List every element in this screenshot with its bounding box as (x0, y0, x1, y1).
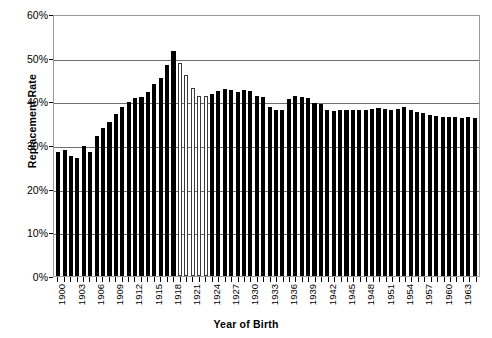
x-tick-mark (173, 277, 174, 282)
replacement-rate-bar-chart: Replacement Rate 0%10%20%30%40%50%60% 19… (0, 0, 492, 338)
x-tick-label: 1951 (384, 284, 395, 305)
bar (255, 96, 259, 276)
bar (63, 150, 67, 276)
bar (261, 97, 265, 276)
x-tick-mark (257, 277, 258, 282)
x-tick-label: 1921 (191, 284, 202, 305)
x-tick-label: 1900 (56, 284, 67, 305)
x-tick-mark (289, 277, 290, 282)
x-tick-mark (373, 277, 374, 282)
x-tick-label: 1924 (210, 284, 221, 305)
bar (191, 88, 195, 276)
bar (95, 136, 99, 276)
bar (409, 110, 413, 276)
bar (178, 63, 182, 276)
x-tick-label: 1954 (403, 284, 414, 305)
bar (242, 90, 246, 276)
bar-series (54, 16, 479, 276)
y-tick-label: 30% (27, 140, 48, 152)
bar (473, 118, 477, 276)
x-tick-label: 1948 (365, 284, 376, 305)
x-tick-mark (347, 277, 348, 282)
x-tick-mark (122, 277, 123, 282)
x-tick-label: 1945 (345, 284, 356, 305)
x-tick-mark (89, 277, 90, 282)
x-tick-mark (353, 277, 354, 282)
bar (447, 117, 451, 276)
x-tick-mark (244, 277, 245, 282)
bar (75, 158, 79, 276)
x-tick-mark (154, 277, 155, 282)
bar (268, 107, 272, 276)
x-tick-mark (379, 277, 380, 282)
x-tick-mark (96, 277, 97, 282)
bar (236, 92, 240, 276)
x-tick-mark (160, 277, 161, 282)
x-tick-label: 1930 (249, 284, 260, 305)
x-tick-label: 1909 (114, 284, 125, 305)
x-tick-mark (334, 277, 335, 282)
bar (223, 89, 227, 276)
x-tick-mark (57, 277, 58, 282)
bar (396, 109, 400, 276)
bar (184, 75, 188, 276)
x-tick-mark (463, 277, 464, 282)
bar (165, 65, 169, 276)
bar (229, 90, 233, 276)
x-tick-mark (238, 277, 239, 282)
bar (114, 114, 118, 276)
bar-slot (471, 16, 477, 276)
x-tick-mark (270, 277, 271, 282)
bar (300, 97, 304, 276)
bar (287, 99, 291, 276)
x-tick-mark (128, 277, 129, 282)
x-tick-mark (83, 277, 84, 282)
bar (466, 117, 470, 276)
bar (389, 110, 393, 276)
bar (357, 110, 361, 276)
x-tick-mark (469, 277, 470, 282)
bar (332, 111, 336, 276)
bar (306, 98, 310, 276)
x-tick-mark (109, 277, 110, 282)
x-tick-mark (424, 277, 425, 282)
x-tick-mark (321, 277, 322, 282)
bar (127, 102, 131, 276)
bar (107, 122, 111, 276)
x-tick-label: 1963 (461, 284, 472, 305)
x-tick-mark (431, 277, 432, 282)
y-tick-label: 0% (33, 271, 48, 283)
bar (415, 112, 419, 276)
x-tick-label: 1927 (230, 284, 241, 305)
x-tick-mark (386, 277, 387, 282)
bar (351, 110, 355, 276)
x-tick-mark (360, 277, 361, 282)
y-tick-label: 50% (27, 53, 48, 65)
x-tick-label: 1939 (307, 284, 318, 305)
x-tick-mark (218, 277, 219, 282)
x-tick-mark (418, 277, 419, 282)
x-tick-label: 1942 (326, 284, 337, 305)
y-tick-label: 10% (27, 227, 48, 239)
x-tick-label: 1915 (152, 284, 163, 305)
y-tick-label: 60% (27, 9, 48, 21)
bar (453, 117, 457, 276)
bar (210, 94, 214, 276)
bar (248, 91, 252, 276)
x-tick-mark (411, 277, 412, 282)
bar (364, 110, 368, 276)
bar (428, 115, 432, 276)
bar (88, 152, 92, 276)
x-tick-mark (167, 277, 168, 282)
bar (171, 51, 175, 276)
x-tick-mark (405, 277, 406, 282)
x-tick-mark (77, 277, 78, 282)
x-tick-mark (70, 277, 71, 282)
bar (274, 110, 278, 276)
x-tick-mark (147, 277, 148, 282)
bar (293, 96, 297, 276)
x-tick-mark (205, 277, 206, 282)
x-tick-mark (315, 277, 316, 282)
x-tick-mark (456, 277, 457, 282)
x-tick-mark (302, 277, 303, 282)
